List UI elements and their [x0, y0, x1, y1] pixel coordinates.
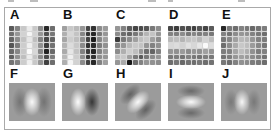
- grid-cell: [121, 32, 126, 37]
- grid-cell: [174, 49, 179, 54]
- grid-cell: [27, 49, 32, 54]
- grid-cell: [62, 60, 67, 65]
- grid-cell: [168, 32, 173, 37]
- grid-cell: [203, 32, 208, 37]
- grid-cell: [227, 43, 232, 48]
- grid-cell: [180, 60, 185, 65]
- grid-cell: [150, 55, 155, 60]
- grid-cell: [97, 37, 102, 42]
- grid-cell: [233, 60, 238, 65]
- grid-cell: [115, 55, 120, 60]
- grid-cell: [15, 26, 20, 31]
- grid-cell: [97, 60, 102, 65]
- grid-cell: [262, 43, 267, 48]
- grid-cell: [262, 55, 267, 60]
- grid-cell: [233, 37, 238, 42]
- grid-cell: [115, 49, 120, 54]
- grid-cell: [227, 26, 232, 31]
- grid-cell: [227, 49, 232, 54]
- grid-cell: [186, 43, 191, 48]
- grid-cell: [156, 32, 161, 37]
- grid-cell: [38, 32, 43, 37]
- panel-label-G: G: [63, 67, 73, 81]
- grid-cell: [192, 60, 197, 65]
- grid-cell: [103, 37, 108, 42]
- crop-artifact-mark: [148, 0, 156, 2]
- grid-cell: [233, 26, 238, 31]
- grid-cell: [127, 32, 132, 37]
- grid-cell: [262, 60, 267, 65]
- grid-cell: [203, 26, 208, 31]
- grid-cell: [227, 32, 232, 37]
- grid-cell: [80, 43, 85, 48]
- grid-cell: [250, 49, 255, 54]
- grid-cell: [33, 32, 38, 37]
- grid-cell: [245, 55, 250, 60]
- grid-cell: [150, 26, 155, 31]
- grid-cell: [97, 49, 102, 54]
- grid-cell: [227, 55, 232, 60]
- grid-cell: [139, 43, 144, 48]
- grid-cell: [256, 26, 261, 31]
- grid-cell: [256, 43, 261, 48]
- grid-cell: [91, 26, 96, 31]
- grid-cell: [139, 49, 144, 54]
- grid-cell: [186, 26, 191, 31]
- grid-cell: [239, 32, 244, 37]
- grid-cell: [168, 55, 173, 60]
- panel-label-H: H: [116, 67, 125, 81]
- grid-cell: [150, 49, 155, 54]
- grid-cell: [203, 55, 208, 60]
- grid-cell: [197, 60, 202, 65]
- grid-cell: [262, 37, 267, 42]
- grid-cell: [144, 37, 149, 42]
- grid-cell: [245, 43, 250, 48]
- grid-cell: [15, 37, 20, 42]
- grid-cell: [239, 49, 244, 54]
- grid-cell: [80, 60, 85, 65]
- grid-cell: [127, 55, 132, 60]
- grid-cell: [44, 32, 49, 37]
- grid-cell: [209, 60, 214, 65]
- gabor-patch-I: [168, 83, 214, 121]
- grid-cell: [127, 60, 132, 65]
- grid-cell: [50, 49, 55, 54]
- grid-cell: [139, 55, 144, 60]
- grid-cell: [86, 26, 91, 31]
- grid-cell: [97, 26, 102, 31]
- grid-cell: [221, 26, 226, 31]
- grid-cell: [9, 26, 14, 31]
- grid-cell: [245, 49, 250, 54]
- grid-cell: [50, 37, 55, 42]
- grid-cell: [192, 32, 197, 37]
- grid-cell: [192, 26, 197, 31]
- grid-cell: [86, 43, 91, 48]
- grid-cell: [144, 60, 149, 65]
- panel-label-C: C: [116, 8, 125, 22]
- grid-cell: [68, 55, 73, 60]
- grid-cell: [250, 55, 255, 60]
- grid-cell: [174, 37, 179, 42]
- grid-cell: [44, 26, 49, 31]
- grid-cell: [97, 43, 102, 48]
- grid-cell: [192, 37, 197, 42]
- grid-cell: [262, 49, 267, 54]
- grid-cell: [174, 55, 179, 60]
- grid-cell: [68, 43, 73, 48]
- grid-cell: [221, 32, 226, 37]
- grid-cell: [197, 43, 202, 48]
- grid-cell: [192, 43, 197, 48]
- gabor-patch-G: [62, 83, 108, 121]
- grid-cell: [156, 55, 161, 60]
- grid-cell: [239, 37, 244, 42]
- gabor-patch-H: [115, 83, 161, 121]
- grid-cell: [186, 32, 191, 37]
- grid-cell: [44, 49, 49, 54]
- grid-cell: [156, 26, 161, 31]
- grid-cell: [74, 43, 79, 48]
- grid-cell: [127, 49, 132, 54]
- grid-cell: [133, 55, 138, 60]
- rf-grid-A: [9, 26, 55, 65]
- grid-cell: [15, 49, 20, 54]
- grid-cell: [150, 37, 155, 42]
